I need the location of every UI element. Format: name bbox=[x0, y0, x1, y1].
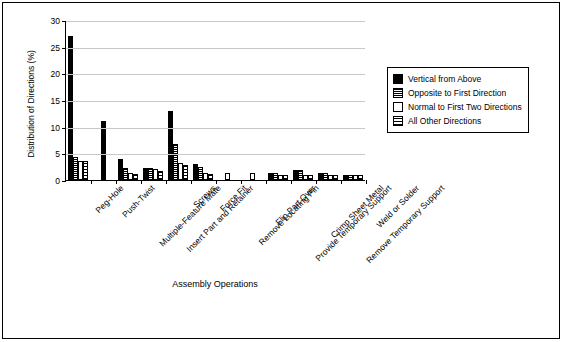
y-tick-mark bbox=[62, 21, 66, 22]
bar bbox=[183, 165, 188, 180]
bar bbox=[101, 121, 106, 180]
y-tick-label: 5 bbox=[44, 150, 60, 158]
y-tick-label: 25 bbox=[44, 44, 60, 52]
y-tick-label: 10 bbox=[44, 124, 60, 132]
bar bbox=[283, 175, 288, 180]
bar bbox=[83, 161, 88, 180]
legend-swatch-icon bbox=[393, 88, 403, 98]
gridline bbox=[66, 21, 365, 22]
gridline bbox=[66, 128, 365, 129]
y-tick-mark bbox=[62, 181, 66, 182]
legend-label: Opposite to First Direction bbox=[408, 88, 506, 98]
gridline bbox=[66, 74, 365, 75]
chart-page: Distribution of Directions (%) 051015202… bbox=[0, 0, 563, 342]
bar bbox=[225, 173, 230, 180]
bar bbox=[250, 173, 255, 180]
plot-area: 051015202530 bbox=[65, 21, 365, 181]
chart-legend: Vertical from AboveOpposite to First Dir… bbox=[387, 67, 529, 133]
y-tick-mark bbox=[62, 154, 66, 155]
x-axis-tick-labels: Peg-HolePush-TwistMultiple-Feature MateI… bbox=[65, 183, 365, 184]
legend-item: Opposite to First Direction bbox=[393, 86, 522, 100]
y-tick-label: 0 bbox=[44, 177, 60, 185]
legend-label: All Other Directions bbox=[408, 116, 481, 126]
legend-item: All Other Directions bbox=[393, 114, 522, 128]
legend-item: Vertical from Above bbox=[393, 72, 522, 86]
legend-label: Vertical from Above bbox=[408, 74, 481, 84]
legend-item: Normal to First Two Directions bbox=[393, 100, 522, 114]
bar bbox=[208, 174, 213, 180]
y-tick-mark bbox=[62, 128, 66, 129]
x-tick-mark bbox=[366, 180, 367, 184]
y-axis-title: Distribution of Directions (%) bbox=[26, 14, 36, 194]
legend-swatch-icon bbox=[393, 116, 403, 126]
x-tick-label: Flip Part Over bbox=[273, 183, 317, 227]
bar bbox=[308, 175, 313, 180]
bar bbox=[133, 174, 138, 180]
gridline bbox=[66, 48, 365, 49]
legend-swatch-icon bbox=[393, 102, 403, 112]
chart-frame: Distribution of Directions (%) 051015202… bbox=[2, 2, 560, 339]
y-tick-label: 15 bbox=[44, 97, 60, 105]
x-tick-label: Push-Twist bbox=[120, 183, 156, 219]
bar bbox=[158, 171, 163, 180]
y-tick-mark bbox=[62, 74, 66, 75]
y-tick-label: 20 bbox=[44, 70, 60, 78]
x-tick-label: Crimp Sheet Metal bbox=[329, 183, 386, 240]
y-tick-label: 30 bbox=[44, 17, 60, 25]
gridline bbox=[66, 154, 365, 155]
y-tick-mark bbox=[62, 48, 66, 49]
legend-label: Normal to First Two Directions bbox=[408, 102, 522, 112]
x-axis-title: Assembly Operations bbox=[65, 279, 365, 289]
gridline bbox=[66, 101, 365, 102]
bar bbox=[333, 175, 338, 180]
bar bbox=[358, 175, 363, 180]
y-tick-mark bbox=[62, 101, 66, 102]
legend-swatch-icon bbox=[393, 74, 403, 84]
